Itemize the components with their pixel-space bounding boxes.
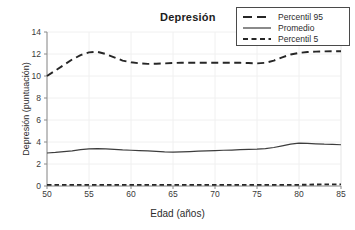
x-axis-title: Edad (años) bbox=[0, 208, 355, 219]
x-tick-label: 80 bbox=[286, 190, 312, 199]
series-line-promedio bbox=[47, 143, 341, 153]
legend-item-promedio: Promedio bbox=[242, 22, 314, 33]
series-line-percentil-5 bbox=[47, 184, 341, 185]
legend-label: Promedio bbox=[278, 23, 314, 33]
y-axis-title: Depresión (puntuación) bbox=[21, 34, 31, 184]
x-tick-label: 75 bbox=[244, 190, 270, 199]
x-tick-label: 70 bbox=[202, 190, 228, 199]
legend-item-percentil-5: Percentil 5 bbox=[242, 33, 318, 44]
legend-label: Percentil 95 bbox=[278, 12, 323, 22]
solid-line-icon bbox=[242, 23, 272, 33]
x-tick-label: 60 bbox=[118, 190, 144, 199]
series-layer bbox=[47, 51, 341, 185]
x-tick-label: 55 bbox=[76, 190, 102, 199]
x-tick-label: 85 bbox=[328, 190, 354, 199]
series-line-percentil-95 bbox=[47, 51, 341, 76]
legend-item-percentil-95: Percentil 95 bbox=[242, 11, 323, 22]
long-dash-line-icon bbox=[242, 12, 272, 22]
depression-percentile-chart: Depresión 02468101214 5055606570758085 D… bbox=[0, 0, 355, 230]
grid-layer bbox=[47, 32, 341, 186]
legend: Percentil 95 Promedio Percentil 5 bbox=[236, 7, 350, 46]
x-tick-label: 50 bbox=[34, 190, 60, 199]
x-tick-label: 65 bbox=[160, 190, 186, 199]
short-dash-line-icon bbox=[242, 34, 272, 44]
legend-label: Percentil 5 bbox=[278, 34, 318, 44]
